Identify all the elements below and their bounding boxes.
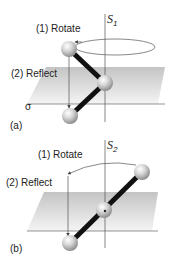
rotation-path-ellipse-a (75, 39, 155, 55)
plane-label-sigma: σ (25, 101, 32, 112)
step-rotate-label-a: (1) Rotate (36, 23, 81, 34)
axis-label-s1: S1 (107, 12, 117, 28)
panel-label-a: (a) (10, 120, 22, 131)
atom-a-bottom (62, 108, 78, 124)
inversion-center-dot (104, 210, 106, 212)
atom-b-center (96, 202, 112, 218)
step-rotate-label-b: (1) Rotate (38, 149, 83, 160)
atom-a-center (97, 75, 113, 91)
atom-b-bottom-left (62, 235, 78, 251)
panel-b: S2 (1) Rotate (2) Reflect (b) (6, 138, 158, 254)
step-reflect-label-a: (2) Reflect (11, 68, 57, 79)
atom-a-top (61, 41, 77, 57)
axis-label-s2: S2 (107, 138, 118, 154)
step-reflect-label-b: (2) Reflect (6, 177, 52, 188)
panel-a: S1 (1) Rotate (2) Reflect σ (a) (10, 12, 165, 131)
atom-b-top-right (134, 164, 150, 180)
improper-rotation-diagram: S1 (1) Rotate (2) Reflect σ (a) S2 (1) R… (0, 0, 175, 265)
rotation-path-arc-b (68, 163, 136, 174)
mirror-plane-b (27, 192, 158, 231)
panel-label-b: (b) (10, 243, 22, 254)
